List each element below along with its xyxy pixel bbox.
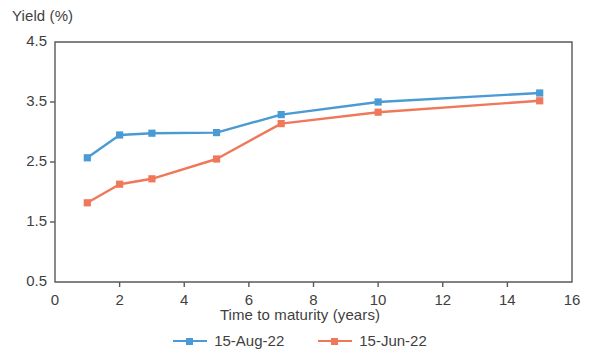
legend-item-2[interactable]: 15-Jun-22 [318, 332, 427, 349]
data-point-marker [375, 109, 382, 116]
legend-item-1[interactable]: 15-Aug-22 [173, 332, 284, 349]
y-tick-label: 0.5 [3, 272, 47, 289]
series-line [87, 101, 539, 203]
yield-curve-chart: Yield (%) 0.51.52.53.54.5 0246810121416 … [0, 0, 600, 357]
legend-marker-icon [173, 335, 207, 347]
y-tick-label: 4.5 [3, 32, 47, 49]
y-tick-label: 3.5 [3, 92, 47, 109]
data-point-marker [278, 120, 285, 127]
legend-label: 15-Jun-22 [359, 332, 427, 349]
chart-legend: 15-Aug-2215-Jun-22 [0, 332, 600, 349]
data-point-marker [536, 97, 543, 104]
series-1 [84, 89, 544, 161]
data-point-marker [116, 131, 123, 138]
data-point-marker [148, 175, 155, 182]
legend-marker-icon [318, 335, 352, 347]
legend-label: 15-Aug-22 [214, 332, 284, 349]
data-point-marker [213, 129, 220, 136]
data-point-marker [84, 154, 91, 161]
y-tick-label: 1.5 [3, 212, 47, 229]
data-point-marker [213, 155, 220, 162]
y-tick-marks [50, 102, 55, 222]
plot-frame-border [55, 42, 572, 282]
data-point-marker [536, 89, 543, 96]
data-point-marker [148, 130, 155, 137]
x-axis-title: Time to maturity (years) [0, 306, 600, 323]
data-point-marker [116, 181, 123, 188]
axis-frame [55, 42, 572, 282]
y-tick-label: 2.5 [3, 152, 47, 169]
x-tick-marks [120, 282, 508, 287]
series-2 [84, 97, 544, 206]
data-point-marker [375, 98, 382, 105]
series-line [87, 93, 539, 158]
legend-square-icon [186, 338, 193, 345]
data-series-layer [84, 89, 544, 206]
data-point-marker [84, 199, 91, 206]
data-point-marker [278, 111, 285, 118]
legend-square-icon [331, 338, 338, 345]
